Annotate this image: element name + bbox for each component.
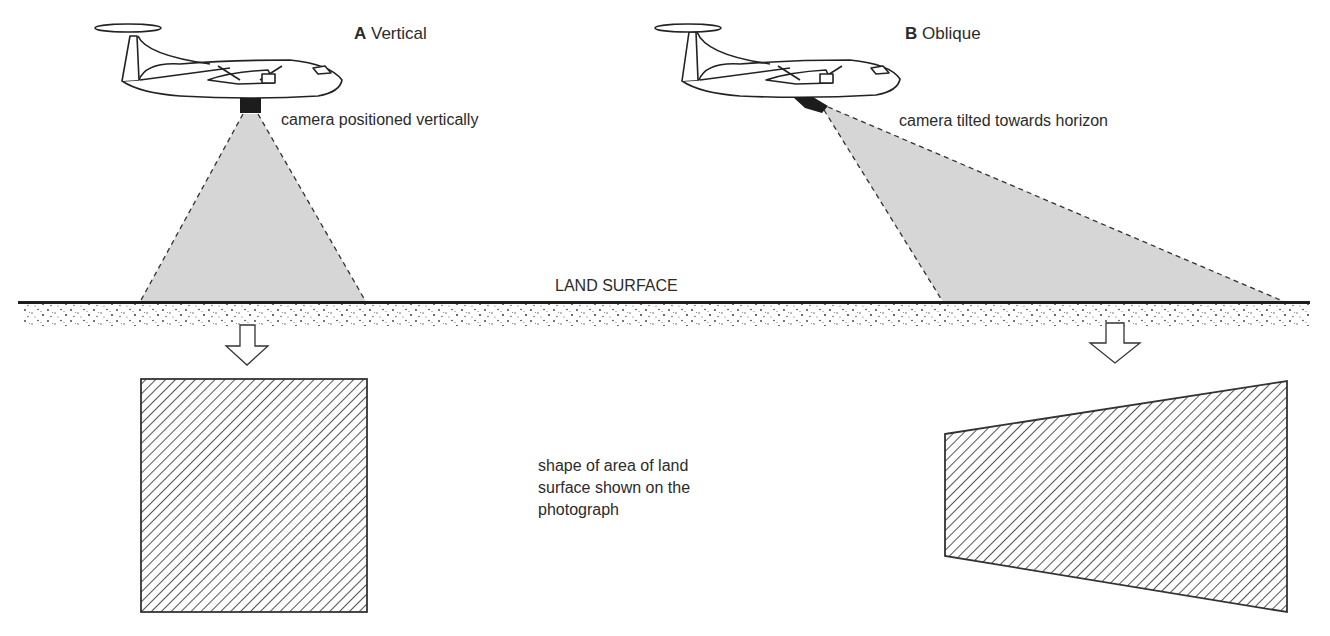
arrow-down-a: [226, 325, 268, 365]
camera-view-cone-oblique: [824, 107, 1285, 302]
caption-line-1: shape of area of land: [538, 455, 690, 477]
arrow-down-b: [1090, 323, 1140, 363]
footprint-caption: shape of area of land surface shown on t…: [538, 455, 690, 521]
camera-oblique-icon: [793, 97, 828, 113]
caption-line-3: photograph: [538, 499, 690, 521]
camera-vertical-icon: [240, 98, 261, 113]
land-surface-label: LAND SURFACE: [555, 277, 678, 295]
camera-oblique-label: camera tilted towards horizon: [899, 112, 1108, 130]
panel-a-title-text: Vertical: [371, 24, 427, 43]
panel-a-letter: A: [354, 24, 366, 43]
panel-a-title: A Vertical: [354, 24, 427, 44]
airplane-a: [95, 24, 342, 98]
camera-view-cone-vertical: [140, 114, 366, 302]
diagram-canvas: [0, 0, 1330, 636]
panel-b-title: B Oblique: [905, 24, 981, 44]
footprint-oblique-trapezoid: [945, 381, 1287, 612]
panel-b-title-text: Oblique: [922, 24, 981, 43]
panel-b-letter: B: [905, 24, 917, 43]
footprint-vertical-square: [141, 379, 367, 612]
airplane-b: [655, 24, 900, 97]
caption-line-2: surface shown on the: [538, 477, 690, 499]
camera-vertical-label: camera positioned vertically: [281, 111, 478, 129]
